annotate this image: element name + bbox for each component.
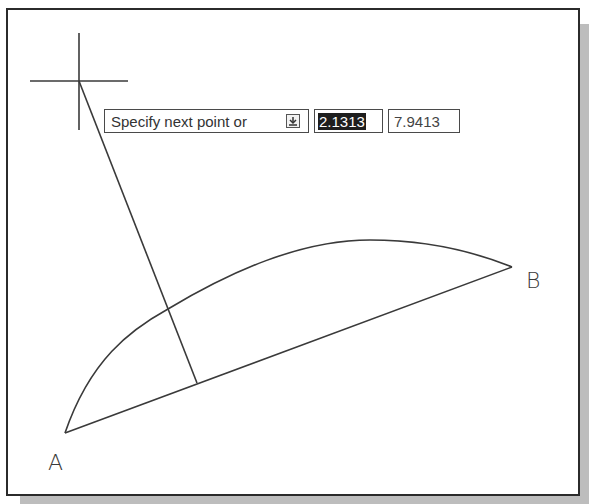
y-coordinate-value: 7.9413 [394, 113, 440, 130]
y-coordinate-input[interactable]: 7.9413 [388, 109, 460, 133]
point-label-a: A [48, 452, 63, 474]
arc-a-b[interactable] [65, 240, 512, 433]
x-coordinate-value: 2.1313 [318, 113, 366, 130]
chord-line-a-b[interactable] [65, 267, 512, 433]
dynamic-input-prompt: Specify next point or [104, 109, 309, 133]
prompt-text: Specify next point or [111, 113, 286, 130]
drawing-canvas[interactable] [0, 0, 589, 504]
point-label-b: B [526, 270, 540, 292]
x-coordinate-input[interactable]: 2.1313 [314, 109, 383, 133]
down-arrow-options-icon[interactable] [286, 114, 300, 128]
